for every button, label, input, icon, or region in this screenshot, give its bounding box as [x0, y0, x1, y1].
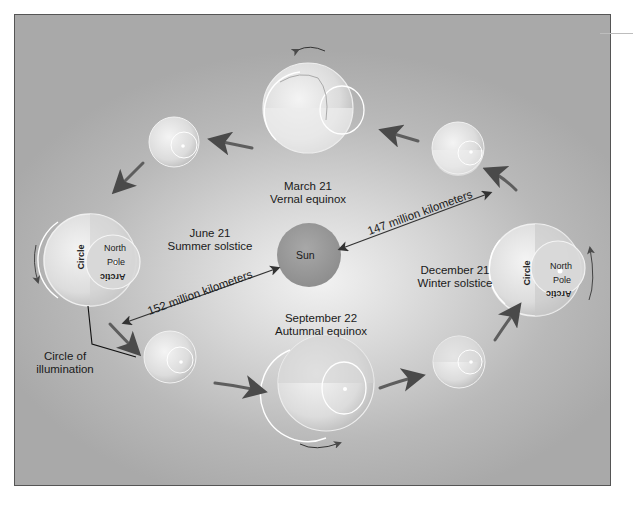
march-label: March 21 Vernal equinox [268, 180, 348, 206]
globe-may [149, 117, 199, 167]
december-pole-label: Pole [553, 275, 571, 285]
december-north-label: North [550, 261, 572, 271]
june-pole-label: Pole [107, 257, 125, 267]
annotation-line2: illumination [30, 363, 100, 376]
june-label: June 21 Summer solstice [160, 227, 260, 253]
orbit-diagram [0, 0, 633, 505]
annotation-line1: Circle of [30, 350, 100, 363]
june-circle-label: Circle [76, 244, 86, 269]
september-label: September 22 Autumnal equinox [271, 312, 371, 338]
sun-label: Sun [296, 249, 315, 262]
june-event: Summer solstice [160, 240, 260, 253]
june-date: June 21 [160, 227, 260, 240]
globe-august [144, 331, 196, 383]
june-arctic-label: Arctic [100, 272, 126, 282]
december-date: December 21 [405, 264, 505, 277]
march-event: Vernal equinox [268, 193, 348, 206]
september-event: Autumnal equinox [271, 325, 371, 338]
globe-september [260, 335, 374, 448]
december-arctic-label: Arctic [546, 289, 572, 299]
december-event: Winter solstice [405, 277, 505, 290]
december-label: December 21 Winter solstice [405, 264, 505, 290]
globe-february [432, 122, 484, 176]
globe-march [263, 47, 364, 153]
march-date: March 21 [268, 180, 348, 193]
june-north-label: North [104, 243, 126, 253]
september-date: September 22 [271, 312, 371, 325]
globe-november [433, 336, 485, 388]
circle-of-illumination-label: Circle of illumination [30, 350, 100, 376]
december-circle-label: Circle [522, 260, 532, 285]
